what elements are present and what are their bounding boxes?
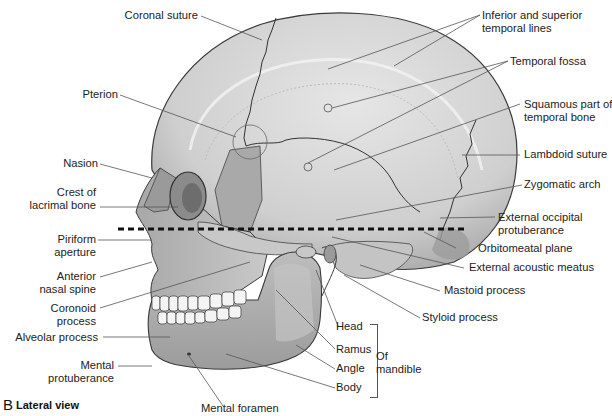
label-line: Piriform (10, 233, 96, 246)
mastoid-region (326, 241, 413, 278)
label-line: aperture (10, 246, 96, 259)
label-mandible-angle: Angle (336, 362, 365, 375)
label-line: Anterior (10, 270, 96, 283)
label-line: mandible (376, 363, 421, 376)
label-external-occipital-protuberance: External occipital protuberance (498, 211, 583, 238)
label-piriform-aperture: Piriform aperture (10, 233, 96, 260)
label-coronal-suture: Coronal suture (110, 9, 198, 22)
label-lambdoid-suture: Lambdoid suture (524, 148, 607, 161)
label-of-mandible: Of mandible (376, 350, 421, 377)
label-line: protuberance (498, 224, 583, 237)
label-line: Crest of (10, 186, 96, 199)
label-mental-protuberance: Mental protuberance (10, 359, 114, 386)
label-line: nasal spine (10, 283, 96, 296)
label-line: Of (376, 350, 421, 363)
label-crest-of-lacrimal-bone: Crest of lacrimal bone (10, 186, 96, 213)
label-mastoid-process: Mastoid process (444, 284, 525, 297)
label-external-acoustic-meatus: External acoustic meatus (469, 261, 594, 274)
label-line: temporal lines (482, 22, 582, 35)
label-line: temporal bone (524, 111, 612, 124)
caption-text: Lateral view (16, 399, 79, 411)
label-coronoid-process: Coronoid process (10, 302, 96, 329)
label-line: protuberance (10, 372, 114, 385)
figure-caption: BLateral view (3, 396, 79, 413)
label-line: process (10, 315, 96, 328)
label-squamous-part: Squamous part of temporal bone (524, 98, 612, 125)
label-mandible-head: Head (336, 320, 363, 333)
label-pterion: Pterion (60, 88, 118, 101)
label-line: lacrimal bone (10, 199, 96, 212)
label-line: Squamous part of (524, 98, 612, 111)
label-nasion: Nasion (40, 157, 98, 170)
label-line: Inferior and superior (482, 9, 582, 22)
label-line: Mental (10, 359, 114, 372)
label-anterior-nasal-spine: Anterior nasal spine (10, 270, 96, 297)
label-zygomatic-arch: Zygomatic arch (524, 178, 600, 191)
label-orbitomeatal-plane: Orbitomeatal plane (478, 242, 573, 255)
label-mandible-ramus: Ramus (336, 343, 371, 356)
label-alveolar-process: Alveolar process (0, 331, 98, 344)
label-temporal-lines: Inferior and superior temporal lines (482, 9, 582, 36)
label-line: Coronoid (10, 302, 96, 315)
skull-lateral-view-figure: Coronal suture Pterion Nasion Crest of l… (0, 0, 612, 416)
label-mental-foramen: Mental foramen (201, 402, 279, 415)
label-line: External occipital (498, 211, 583, 224)
label-mandible-body: Body (336, 381, 362, 394)
label-temporal-fossa: Temporal fossa (510, 55, 586, 68)
panel-letter: B (3, 396, 13, 413)
label-styloid-process: Styloid process (422, 311, 498, 324)
